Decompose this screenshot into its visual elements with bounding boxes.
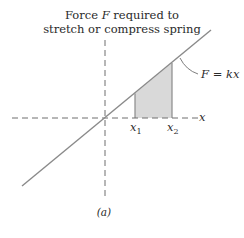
force-line (22, 30, 211, 186)
equation-label: F = kx (200, 67, 240, 81)
tick-x2: x2 (167, 120, 179, 136)
label-leader (180, 58, 198, 74)
figure-caption: (a) (97, 206, 111, 218)
tick-x1: x1 (130, 120, 142, 136)
spring-force-diagram: Force F required to stretch or compress … (0, 0, 244, 238)
x-axis-label: x (199, 110, 206, 124)
title-line-2: stretch or compress spring (43, 22, 201, 36)
work-shaded-area (135, 63, 172, 118)
title-line-1: Force F required to (65, 8, 179, 22)
